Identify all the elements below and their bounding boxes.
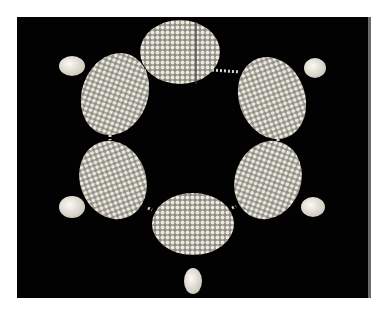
drop-lower-right	[301, 197, 325, 217]
drop-bottom	[184, 268, 202, 294]
drop-upper-left	[59, 56, 85, 76]
drop-lower-left	[59, 196, 85, 218]
cluster-lower-right	[223, 131, 312, 229]
pearl-clusters	[68, 20, 317, 255]
necklace-illustration	[17, 17, 368, 298]
cluster-upper-right	[227, 47, 318, 149]
necklace-photo	[17, 17, 368, 298]
cluster-top-clasp	[140, 20, 220, 84]
cluster-bottom	[152, 193, 234, 255]
drop-upper-right	[304, 58, 326, 78]
